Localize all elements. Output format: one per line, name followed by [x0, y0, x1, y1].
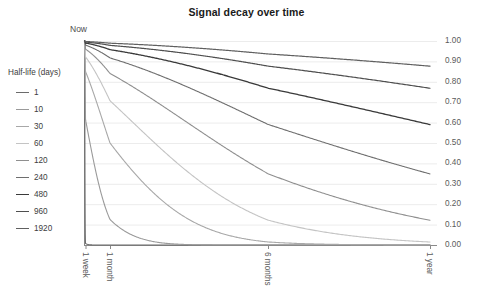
- y-tick-label: 0.90: [445, 56, 461, 65]
- y-tick-label: 0.60: [445, 118, 461, 127]
- legend-item-label: 60: [34, 139, 43, 148]
- legend-item[interactable]: 1920: [16, 220, 82, 237]
- legend-item[interactable]: 960: [16, 203, 82, 220]
- series-line: [85, 41, 431, 245]
- legend-title: Half-life (days): [8, 68, 82, 77]
- x-tick-label: 1 week: [81, 252, 90, 278]
- legend-item[interactable]: 240: [16, 169, 82, 186]
- x-tick-label: 1 year: [425, 252, 434, 275]
- y-tick-label: 0.70: [445, 97, 461, 106]
- x-tick-label: 6 months: [263, 252, 272, 286]
- legend-line-swatch-icon: [16, 126, 29, 127]
- legend-item-label: 120: [34, 156, 48, 165]
- legend-item-label: 10: [34, 105, 43, 114]
- y-tick-label: 0.40: [445, 158, 461, 167]
- chart-page: Signal decay over time Now Half-life (da…: [0, 0, 493, 307]
- legend-item-label: 1: [34, 88, 39, 97]
- y-tick-label: 0.00: [445, 240, 461, 249]
- legend-items: 11030601202404809601920: [8, 84, 82, 237]
- legend-item-label: 240: [34, 173, 48, 182]
- legend-item[interactable]: 480: [16, 186, 82, 203]
- series-line: [85, 41, 431, 220]
- legend-item[interactable]: 1: [16, 84, 82, 101]
- legend-item[interactable]: 30: [16, 118, 82, 135]
- legend-item-label: 1920: [34, 224, 52, 233]
- series-line: [85, 41, 431, 174]
- legend-line-swatch-icon: [16, 160, 29, 161]
- y-tick-label: 1.00: [445, 36, 461, 45]
- legend-item[interactable]: 120: [16, 152, 82, 169]
- legend: Half-life (days) 11030601202404809601920: [8, 68, 82, 237]
- legend-line-swatch-icon: [16, 228, 29, 229]
- legend-item-label: 960: [34, 207, 48, 216]
- legend-item[interactable]: 10: [16, 101, 82, 118]
- legend-item[interactable]: 60: [16, 135, 82, 152]
- y-tick-label: 0.20: [445, 199, 461, 208]
- legend-line-swatch-icon: [16, 143, 29, 144]
- series-line: [85, 41, 431, 88]
- legend-line-swatch-icon: [16, 194, 29, 195]
- legend-item-label: 480: [34, 190, 48, 199]
- legend-line-swatch-icon: [16, 109, 29, 110]
- legend-line-swatch-icon: [16, 211, 29, 212]
- y-tick-label: 0.80: [445, 77, 461, 86]
- y-tick-label: 0.10: [445, 220, 461, 229]
- legend-item-label: 30: [34, 122, 43, 131]
- legend-line-swatch-icon: [16, 177, 29, 178]
- series-line: [85, 41, 431, 242]
- legend-line-swatch-icon: [16, 92, 29, 93]
- y-tick-label: 0.30: [445, 179, 461, 188]
- gridlines: [85, 42, 438, 246]
- y-tick-label: 0.50: [445, 138, 461, 147]
- x-tick-label: 1 month: [105, 252, 114, 282]
